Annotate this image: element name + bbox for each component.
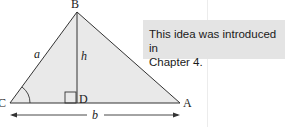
vertex-label-c: C	[0, 96, 6, 110]
side-label-b: b	[92, 108, 98, 122]
vertex-label-d: D	[79, 92, 88, 106]
arrowhead-left-icon	[10, 113, 17, 118]
side-label-h: h	[81, 49, 87, 63]
side-label-a: a	[34, 47, 40, 61]
arrowhead-right-icon	[173, 113, 180, 118]
vertex-label-a: A	[183, 96, 192, 110]
triangle-diagram: B C A D a h b	[0, 0, 200, 127]
vertex-label-b: B	[71, 0, 79, 11]
